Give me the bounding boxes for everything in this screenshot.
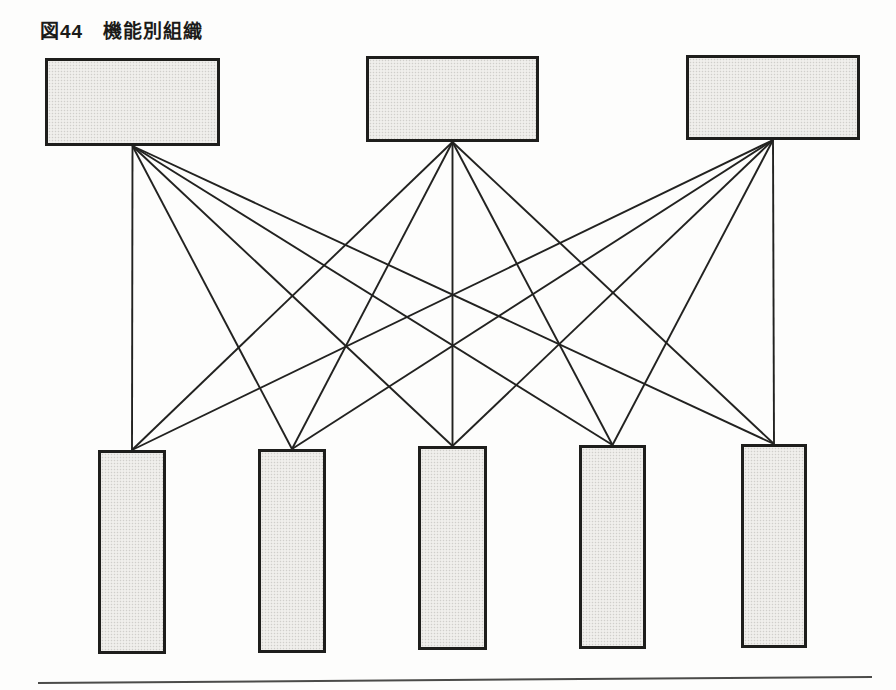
page-bottom-rule	[38, 677, 872, 683]
bottom-box-5	[741, 444, 807, 648]
top-box-3	[686, 55, 860, 140]
functional-organization-diagram	[0, 0, 896, 690]
connector-line	[613, 140, 774, 445]
scanned-page: 図44 機能別組織	[0, 0, 896, 690]
top-box-1	[45, 58, 220, 146]
connector-line	[773, 140, 774, 444]
connector-line	[133, 146, 293, 449]
bottom-box-2	[258, 449, 326, 653]
connector-line	[132, 146, 133, 450]
connector-line	[132, 142, 453, 450]
bottom-box-1	[98, 450, 166, 654]
bottom-box-3	[418, 446, 487, 650]
connector-line	[292, 142, 453, 449]
top-box-2	[366, 56, 539, 142]
bottom-box-4	[579, 445, 646, 649]
connector-line	[292, 140, 773, 449]
